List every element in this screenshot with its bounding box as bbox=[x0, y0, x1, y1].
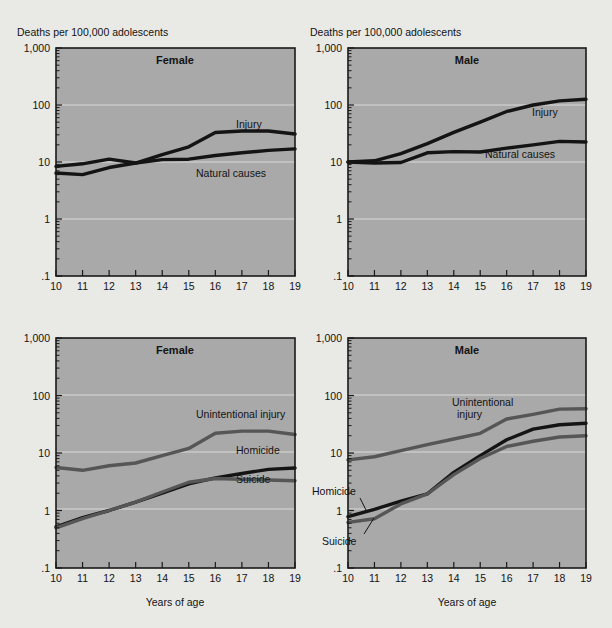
y-tick-label: 1 bbox=[44, 213, 50, 225]
y-tick-label: 1,000 bbox=[24, 42, 50, 54]
plot-area-bottom-right: 1,000100101.1 10111213141516171819 bbox=[316, 332, 592, 584]
y-tick-label: .1 bbox=[333, 562, 342, 574]
panel-top-left: Deaths per 100,000 adolescents 1,0001001… bbox=[0, 0, 310, 310]
series-label-unintentional-injury: Unintentional injury bbox=[196, 408, 286, 420]
series-label-homicide: Homicide bbox=[312, 485, 356, 497]
x-tick-label: 19 bbox=[580, 280, 592, 292]
x-tick-label: 17 bbox=[527, 572, 539, 584]
x-tick-label: 12 bbox=[395, 572, 407, 584]
axis-note-top-right: Deaths per 100,000 adolescents bbox=[310, 26, 461, 38]
y-tick-label: 1 bbox=[336, 213, 342, 225]
y-tick-label: 10 bbox=[38, 156, 50, 168]
x-axis-title-bottom-right: Years of age bbox=[438, 596, 497, 608]
y-tick-label: 100 bbox=[32, 99, 50, 111]
series-label-unintentional-injury-line1: Unintentional bbox=[452, 396, 513, 408]
y-tick-label: .1 bbox=[41, 270, 50, 282]
x-tick-label: 13 bbox=[130, 280, 142, 292]
figure-root: Deaths per 100,000 adolescents 1,0001001… bbox=[0, 0, 612, 628]
series-label-homicide: Homicide bbox=[236, 444, 280, 456]
x-tick-label: 11 bbox=[77, 572, 88, 584]
x-tick-label: 18 bbox=[263, 572, 275, 584]
x-tick-label: 15 bbox=[474, 572, 486, 584]
x-axis-title-bottom-left: Years of age bbox=[146, 596, 205, 608]
chart-top-right: Deaths per 100,000 adolescents 1,0001001… bbox=[302, 0, 612, 310]
x-tick-label: 15 bbox=[183, 280, 195, 292]
x-tick-label: 19 bbox=[289, 280, 301, 292]
series-label-injury: Injury bbox=[532, 106, 558, 118]
y-tick-label: 1 bbox=[336, 505, 342, 517]
series-label-injury: Injury bbox=[236, 118, 262, 130]
panel-title-bottom-left: Female bbox=[156, 344, 194, 356]
x-tick-label: 12 bbox=[103, 572, 115, 584]
y-tick-label: .1 bbox=[41, 562, 50, 574]
chart-top-left: Deaths per 100,000 adolescents 1,0001001… bbox=[0, 0, 310, 310]
x-tick-label: 17 bbox=[236, 572, 248, 584]
series-label-natural-causes: Natural causes bbox=[485, 148, 555, 160]
x-tick-label: 16 bbox=[501, 572, 513, 584]
x-tick-label: 17 bbox=[527, 280, 539, 292]
x-tick-label: 17 bbox=[236, 280, 248, 292]
plot-area-top-right: 1,000100101.1 10111213141516171819 bbox=[316, 42, 592, 292]
x-tick-label: 19 bbox=[289, 572, 301, 584]
chart-bottom-right: 1,000100101.1 10111213141516171819 Male … bbox=[302, 318, 612, 628]
series-label-unintentional-injury-line2: injury bbox=[457, 408, 483, 420]
x-tick-label: 13 bbox=[421, 572, 433, 584]
x-tick-label: 10 bbox=[342, 280, 354, 292]
x-tick-label: 13 bbox=[421, 280, 433, 292]
x-tick-label: 11 bbox=[369, 280, 380, 292]
x-tick-label: 18 bbox=[554, 280, 566, 292]
panel-title-top-left: Female bbox=[156, 54, 194, 66]
x-tick-label: 16 bbox=[501, 280, 513, 292]
x-tick-label: 19 bbox=[580, 572, 592, 584]
x-tick-label: 14 bbox=[156, 572, 168, 584]
panel-title-top-right: Male bbox=[455, 54, 479, 66]
x-tick-label: 12 bbox=[395, 280, 407, 292]
x-tick-label: 16 bbox=[209, 572, 221, 584]
y-tick-label: 1 bbox=[44, 505, 50, 517]
y-tick-label: 1,000 bbox=[24, 332, 50, 344]
x-tick-label: 15 bbox=[474, 280, 486, 292]
y-tick-label: 100 bbox=[324, 390, 342, 402]
x-tick-label: 11 bbox=[77, 280, 88, 292]
y-tick-label: 100 bbox=[324, 99, 342, 111]
x-tick-label: 14 bbox=[448, 280, 460, 292]
x-tick-label: 10 bbox=[50, 280, 62, 292]
x-tick-label: 14 bbox=[448, 572, 460, 584]
x-tick-label: 10 bbox=[50, 572, 62, 584]
y-tick-label: 100 bbox=[32, 390, 50, 402]
chart-bottom-left: 1,000100101.1 10111213141516171819 Femal… bbox=[0, 318, 310, 628]
x-tick-label: 14 bbox=[156, 280, 168, 292]
series-label-suicide: Suicide bbox=[322, 535, 357, 547]
x-tick-label: 15 bbox=[183, 572, 195, 584]
x-tick-label: 10 bbox=[342, 572, 354, 584]
y-tick-label: 10 bbox=[330, 156, 342, 168]
panel-top-right: Deaths per 100,000 adolescents 1,0001001… bbox=[302, 0, 612, 310]
panel-bottom-right: 1,000100101.1 10111213141516171819 Male … bbox=[302, 318, 612, 628]
y-tick-label: 10 bbox=[38, 447, 50, 459]
x-tick-label: 16 bbox=[209, 280, 221, 292]
y-tick-label: 1,000 bbox=[316, 332, 342, 344]
y-tick-label: 1,000 bbox=[316, 42, 342, 54]
plot-area-bottom-left: 1,000100101.1 10111213141516171819 bbox=[24, 332, 301, 584]
panel-title-bottom-right: Male bbox=[455, 344, 479, 356]
x-tick-label: 11 bbox=[369, 572, 380, 584]
series-label-natural-causes: Natural causes bbox=[196, 167, 266, 179]
x-tick-label: 18 bbox=[263, 280, 275, 292]
x-tick-label: 18 bbox=[554, 572, 566, 584]
panel-bottom-left: 1,000100101.1 10111213141516171819 Femal… bbox=[0, 318, 310, 628]
x-tick-label: 13 bbox=[130, 572, 142, 584]
y-tick-label: 10 bbox=[330, 447, 342, 459]
x-tick-label: 12 bbox=[103, 280, 115, 292]
y-tick-label: .1 bbox=[333, 270, 342, 282]
axis-note-top-left: Deaths per 100,000 adolescents bbox=[17, 26, 168, 38]
series-label-suicide: Suicide bbox=[236, 473, 271, 485]
